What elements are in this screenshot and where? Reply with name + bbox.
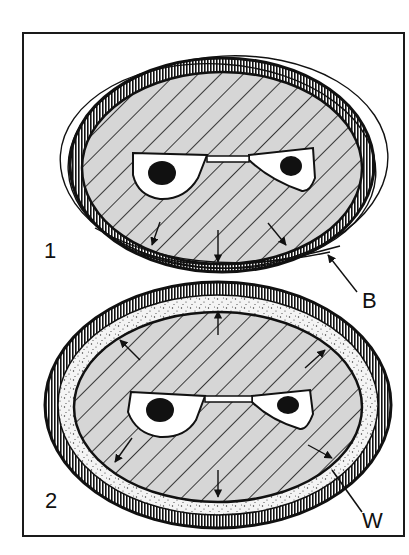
panel-2-callout-label: W	[362, 510, 383, 532]
diagram-canvas	[0, 0, 409, 555]
connector-bridge	[205, 396, 252, 402]
callout-leader-b	[328, 255, 357, 292]
panel-1-callout-label: B	[362, 290, 377, 312]
panel-2-number: 2	[45, 490, 57, 512]
panel-2	[45, 282, 391, 528]
right-blob	[280, 156, 302, 176]
panel-1-number: 1	[44, 240, 56, 262]
left-blob	[148, 161, 176, 185]
hatched-core	[82, 72, 362, 264]
connector-bridge	[207, 156, 249, 162]
panel-1	[53, 48, 393, 292]
right-blob	[277, 396, 299, 414]
left-blob	[146, 398, 174, 422]
